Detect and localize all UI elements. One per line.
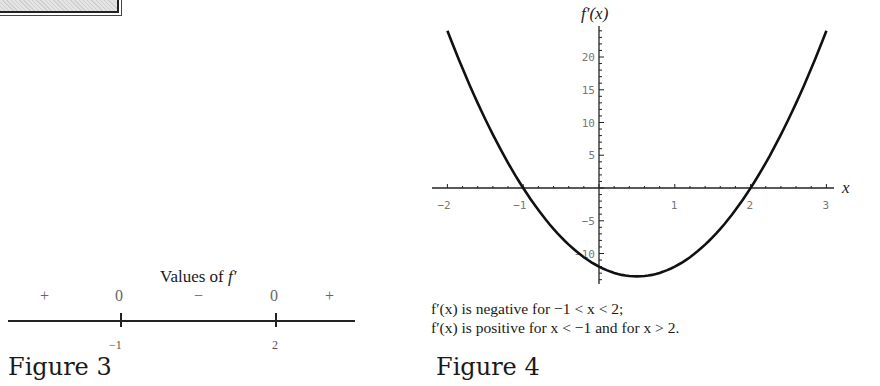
x-tick-label: 3: [822, 199, 829, 212]
y-tick-label: 15: [582, 84, 595, 97]
y-axis: [599, 26, 604, 284]
x-tick-label: −2: [437, 199, 450, 212]
caption-line-2: f′(x) is positive for x < −1 and for x >…: [431, 319, 679, 337]
y-tick-label: 10: [582, 117, 595, 130]
y-axis-label: f′(x): [581, 4, 609, 23]
y-tick-label: 5: [588, 149, 595, 162]
y-tick-label: −5: [582, 215, 595, 228]
caption-line-1: f′(x) is negative for −1 < x < 2;: [431, 300, 623, 318]
caption-text-1: f′(x) is negative for −1 < x < 2;: [431, 300, 623, 317]
x-tick-label: 2: [747, 199, 754, 212]
x-tick-label: 1: [671, 199, 678, 212]
y-tick-label: 20: [582, 51, 595, 64]
figure-4-label: Figure 4: [436, 353, 540, 381]
derivative-curve: [447, 31, 826, 277]
x-tick-labels: −2−1123: [437, 199, 829, 212]
caption-text-2: f′(x) is positive for x < −1 and for x >…: [431, 319, 679, 336]
x-axis-label: x: [841, 178, 850, 197]
x-axis: [432, 184, 834, 188]
y-tick-labels: −10−55101520: [575, 51, 595, 261]
x-tick-label: −1: [513, 199, 526, 212]
